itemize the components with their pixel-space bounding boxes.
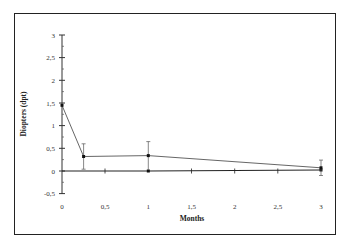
- x-tick-label: 1,5: [187, 203, 196, 211]
- y-tick-label: -0,5: [44, 190, 56, 198]
- y-tick-label: 2: [52, 77, 56, 85]
- y-tick-label: 1: [52, 122, 56, 130]
- diopters-series-line: [62, 105, 321, 168]
- y-tick-labels: 3 2,5 2 1,5 1 0,5 0 -0,5: [44, 32, 56, 199]
- x-tick-label: 0,5: [101, 203, 110, 211]
- data-point-marker: [61, 104, 64, 107]
- y-tick-label: 0,5: [46, 145, 55, 153]
- x-tick-label: 2,5: [273, 203, 282, 211]
- y-tick-label: 0: [52, 168, 56, 176]
- x-tick-label: 3: [319, 203, 323, 211]
- x-tick-label: 1: [147, 203, 151, 211]
- x-tick-label: 2: [233, 203, 237, 211]
- y-tick-label: 3: [52, 32, 56, 40]
- chart-plot: 3 2,5 2 1,5 1 0,5 0 -0,5 Diopters (dpt): [0, 0, 348, 246]
- y-axis-title: Diopters (dpt): [19, 91, 28, 137]
- x-tick-label: 0: [60, 203, 64, 211]
- y-tick-label: 1,5: [46, 100, 55, 108]
- x-tick-labels: 0 0,5 1 1,5 2 2,5 3: [60, 203, 323, 211]
- y-tick-label: 2,5: [46, 54, 55, 62]
- data-point-marker: [320, 166, 323, 169]
- data-point-marker: [147, 154, 150, 157]
- data-point-marker: [82, 155, 85, 158]
- x-axis-title: Months: [180, 214, 205, 223]
